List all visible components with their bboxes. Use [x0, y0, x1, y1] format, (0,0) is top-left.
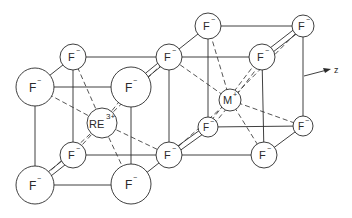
svg-text:F: F: [257, 51, 264, 63]
ion-f-right-bl: F −: [198, 117, 218, 137]
svg-text:−: −: [267, 145, 271, 152]
ion-f-back-br: F −: [156, 142, 182, 168]
ion-re: RE 3+: [87, 108, 117, 138]
svg-text:F: F: [125, 81, 132, 95]
svg-text:−: −: [265, 47, 269, 54]
ion-f-front-tl: F −: [16, 68, 54, 106]
svg-text:RE: RE: [89, 118, 104, 130]
ion-f-right-tl: F −: [195, 13, 221, 39]
svg-text:F: F: [259, 149, 266, 161]
svg-text:F: F: [29, 179, 36, 193]
z-axis-label: z: [334, 65, 339, 75]
ion-f-back-tr: F −: [156, 44, 182, 70]
svg-text:F: F: [68, 51, 75, 63]
svg-text:−: −: [211, 16, 215, 23]
ion-f-right-low: F −: [251, 142, 277, 168]
svg-text:3+: 3+: [106, 112, 115, 121]
svg-text:−: −: [37, 175, 41, 182]
z-axis-arrow: z: [304, 65, 339, 76]
ion-f-front-br: F −: [111, 164, 151, 204]
svg-text:M: M: [223, 94, 232, 106]
svg-text:−: −: [76, 145, 80, 152]
ion-f-front-tr: F −: [111, 67, 151, 107]
svg-text:−: −: [133, 77, 137, 84]
svg-text:−: −: [37, 77, 41, 84]
svg-text:−: −: [210, 118, 214, 125]
ion-f-back-tl: F −: [60, 44, 86, 70]
ion-f-right-tr: F −: [292, 15, 314, 37]
svg-text:+: +: [233, 91, 237, 98]
ion-f-right-br: F −: [293, 116, 313, 136]
svg-text:F: F: [68, 149, 75, 161]
svg-text:F: F: [203, 20, 210, 32]
svg-text:F: F: [203, 122, 209, 133]
ion-f-back-bl: F −: [60, 142, 86, 168]
crystal-structure-diagram: z F − F − F − F − F − F − M + F −: [0, 0, 352, 218]
ion-m: M +: [219, 89, 241, 111]
ion-f-right-mid: F −: [249, 44, 275, 70]
svg-text:−: −: [172, 47, 176, 54]
svg-text:F: F: [125, 178, 132, 192]
ion-f-front-bl: F −: [16, 166, 54, 204]
svg-text:F: F: [298, 121, 304, 132]
svg-text:−: −: [306, 16, 310, 23]
svg-text:F: F: [298, 20, 305, 32]
svg-text:F: F: [164, 51, 171, 63]
svg-text:F: F: [164, 149, 171, 161]
svg-text:−: −: [133, 174, 137, 181]
svg-text:−: −: [172, 145, 176, 152]
svg-text:−: −: [76, 47, 80, 54]
lattice-svg: z F − F − F − F − F − F − M + F −: [0, 0, 352, 218]
svg-text:−: −: [305, 117, 309, 124]
svg-text:F: F: [29, 81, 36, 95]
